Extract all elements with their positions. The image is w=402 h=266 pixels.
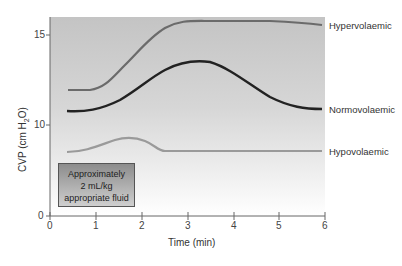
x-tick-6: 6 (322, 220, 328, 231)
annotation-line-3: appropriate fluid (59, 192, 134, 204)
label-normovolaemic: Normovolaemic (329, 104, 395, 115)
x-tick-3: 3 (185, 220, 191, 231)
label-hypervolaemic: Hypervolaemic (329, 20, 392, 31)
annotation-box: Approximately 2 mL/kg appropriate fluid (58, 163, 135, 207)
series-hypervolaemic-line (68, 21, 322, 90)
x-axis-title: Time (min) (168, 237, 215, 248)
x-tick-1: 1 (93, 220, 99, 231)
x-tick-0: 0 (47, 220, 53, 231)
y-tick-15: 15 (34, 29, 45, 40)
series-hypovolaemic-line (67, 138, 322, 152)
x-tick-5: 5 (276, 220, 282, 231)
chart-svg (0, 0, 402, 266)
annotation-line-2: 2 mL/kg (59, 180, 134, 192)
y-tick-0: 0 (38, 210, 44, 221)
x-tick-4: 4 (231, 220, 237, 231)
series-normovolaemic-line (67, 61, 322, 111)
x-tick-2: 2 (139, 220, 145, 231)
y-axis-title: CVP (cm H2O) (17, 107, 30, 172)
label-hypovolaemic: Hypovolaemic (329, 146, 389, 157)
y-tick-10: 10 (34, 119, 45, 130)
annotation-line-1: Approximately (59, 168, 134, 180)
